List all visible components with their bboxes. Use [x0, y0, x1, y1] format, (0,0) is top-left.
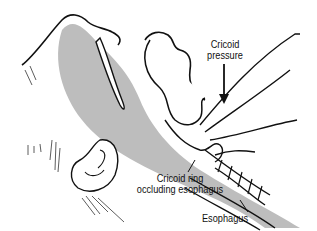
cricoid-ring-label: Cricoid ring occluding esophagus [125, 173, 235, 195]
pressure-arrow-head [219, 94, 229, 104]
cricoid-ring-label-line1: Cricoid ring [125, 173, 235, 184]
airway-region [58, 24, 300, 228]
esophagus-label: Esophagus [188, 213, 262, 224]
cricoid-pressure-label: Cricoid pressure [205, 39, 245, 61]
ear [71, 140, 117, 191]
cricoid-pressure-label-line2: pressure [205, 50, 245, 61]
jaw-outline [145, 40, 205, 125]
esophagus-label-text: Esophagus [188, 213, 262, 224]
cricoid-pressure-label-line1: Cricoid [205, 39, 245, 50]
cricoid-pressure-illustration: Cricoid pressure Cricoid ring occluding … [0, 0, 317, 231]
cricoid-ring-label-line2: occluding esophagus [125, 184, 235, 195]
anatomy-drawing [0, 0, 317, 231]
